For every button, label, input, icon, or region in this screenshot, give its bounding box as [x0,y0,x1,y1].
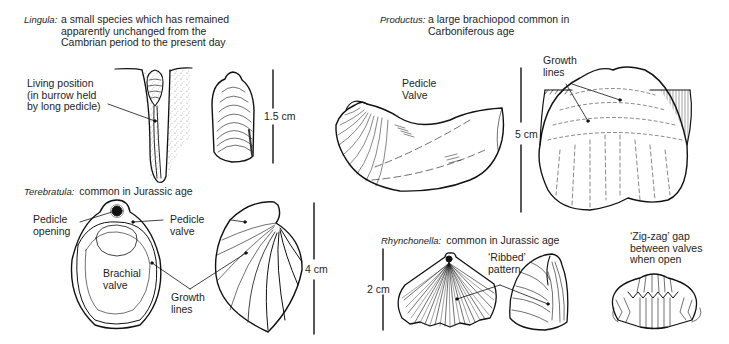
productus-front-drawing [539,67,691,210]
productus-side-drawing [336,101,504,191]
rhynchonella-lateral-drawing [500,254,568,330]
terebratula-lateral-drawing [190,202,302,332]
rhynchonella-dorsal-drawing [398,253,500,327]
terebratula-dorsal-drawing [71,200,190,329]
lingula-shell-drawing [212,72,254,162]
illustration-canvas [0,0,729,344]
rhynchonella-front-drawing [612,274,701,329]
lingula-burrow-drawing [108,68,192,183]
